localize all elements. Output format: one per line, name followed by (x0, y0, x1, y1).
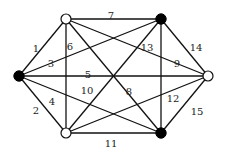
edge-label: 13 (141, 42, 154, 53)
node-e-open-circle (61, 128, 71, 138)
node-d-open-circle (203, 71, 213, 81)
edge-label: 3 (48, 58, 54, 69)
edge-label: 15 (191, 106, 204, 117)
edge-1 (19, 19, 66, 76)
edge-label: 14 (190, 42, 203, 53)
edge-label: 11 (105, 138, 118, 149)
node-b-filled-circle (156, 14, 166, 24)
node-c-filled-circle (14, 71, 24, 81)
edge-label: 2 (33, 105, 39, 116)
edge-label: 5 (85, 69, 91, 80)
edge-label: 12 (167, 93, 180, 104)
edge-label: 4 (49, 96, 55, 107)
edge-label: 6 (67, 41, 73, 52)
node-f-filled-circle (156, 128, 166, 138)
edge-labels-layer: 123456789101112131415 (33, 10, 204, 149)
edge-label: 10 (81, 85, 94, 96)
node-a-open-circle (61, 14, 71, 24)
edge-2 (19, 76, 66, 133)
edge-15 (161, 76, 208, 133)
graph-diagram: 123456789101112131415 (0, 0, 225, 151)
edge-label: 1 (33, 43, 39, 54)
edge-label: 8 (126, 86, 132, 97)
edges-layer (19, 19, 208, 133)
edge-label: 7 (108, 10, 114, 21)
edge-label: 9 (174, 58, 180, 69)
